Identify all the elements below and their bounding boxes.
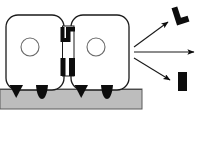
left-module (6, 15, 64, 99)
figure-canvas (0, 0, 206, 145)
bar-block-shape-icon (178, 72, 187, 91)
ground-strip-fill (0, 89, 142, 109)
coupling-assembly (61, 26, 76, 76)
left-module-port-icon (21, 38, 39, 56)
coupling-lower-latch-bar-left-icon (61, 58, 66, 76)
right-module (71, 15, 129, 99)
diagram-svg (0, 0, 206, 145)
ground-strip (0, 89, 142, 109)
coupling-lower-latch-bar-right-icon (69, 58, 75, 76)
right-module-port-icon (87, 38, 105, 56)
